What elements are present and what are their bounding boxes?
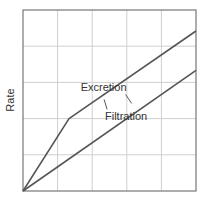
leader-line-filtration	[104, 99, 107, 109]
series-label-excretion: Excretion	[81, 81, 127, 93]
plot-frame	[23, 10, 196, 191]
series-labels: ExcretionFiltration	[81, 81, 148, 122]
y-axis-label: Rate	[4, 88, 16, 111]
chart: ExcretionFiltration Rate	[0, 0, 205, 199]
series-label-filtration: Filtration	[105, 110, 147, 122]
grid	[23, 10, 196, 191]
